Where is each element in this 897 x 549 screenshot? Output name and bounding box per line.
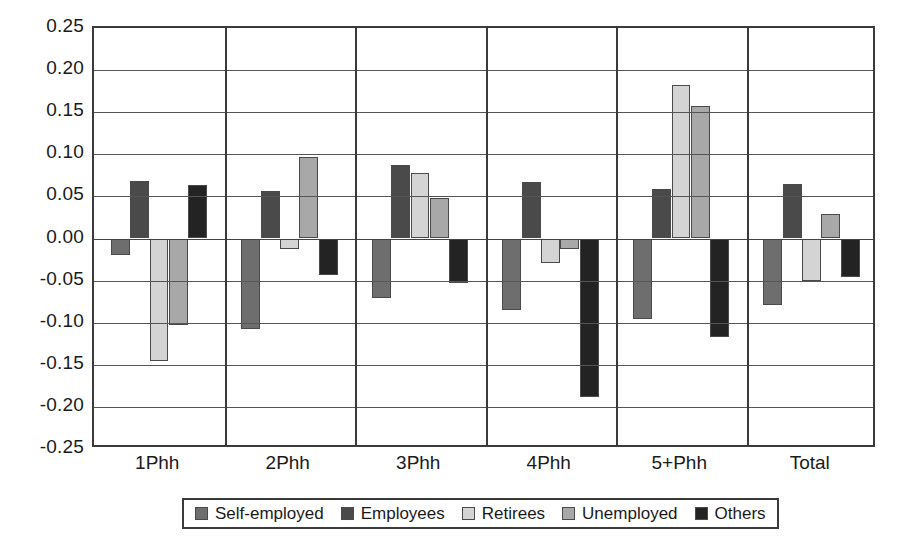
y-axis-tick-label: 0.10 [12, 141, 84, 163]
legend-item: Retirees [462, 504, 545, 524]
bar [560, 239, 579, 249]
y-axis-tick-label: 0.20 [12, 57, 84, 79]
gridline [94, 365, 873, 366]
gridline [94, 323, 873, 324]
plot-area [92, 26, 875, 447]
legend-swatch-icon [462, 507, 475, 520]
group-separator [486, 28, 488, 445]
y-axis-tick-label: 0.00 [12, 226, 84, 248]
chart-legend: Self-employedEmployeesRetireesUnemployed… [182, 498, 779, 529]
legend-label: Unemployed [582, 504, 677, 524]
bar [169, 239, 188, 326]
x-axis-tick-label: 4Phh [484, 452, 615, 474]
gridline [94, 407, 873, 408]
y-axis-tick-label: 0.15 [12, 99, 84, 121]
bar [633, 239, 652, 320]
bar [391, 165, 410, 238]
bar [672, 85, 691, 238]
bar [319, 239, 338, 275]
group-separator [225, 28, 227, 445]
bar [580, 239, 599, 397]
group-separator [355, 28, 357, 445]
x-axis-tick-label: 2Phh [223, 452, 354, 474]
legend-label: Others [715, 504, 766, 524]
legend-label: Self-employed [215, 504, 324, 524]
bar [449, 239, 468, 284]
bar [691, 106, 710, 238]
legend-item: Self-employed [195, 504, 324, 524]
legend-swatch-icon [562, 507, 575, 520]
bar [130, 181, 149, 238]
y-axis-tick-label: -0.15 [12, 352, 84, 374]
legend-item: Employees [341, 504, 445, 524]
bar [372, 239, 391, 299]
x-axis-tick-label: 1Phh [92, 452, 223, 474]
y-axis-tick-label: -0.20 [12, 394, 84, 416]
bar [502, 239, 521, 311]
y-axis-tick-label: -0.25 [12, 436, 84, 458]
bar [299, 157, 318, 239]
bar [802, 239, 821, 281]
legend-swatch-icon [195, 507, 208, 520]
bar [111, 239, 130, 256]
y-axis-tick-label: -0.05 [12, 268, 84, 290]
gridline [94, 154, 873, 155]
gridline [94, 281, 873, 282]
gridline [94, 112, 873, 113]
x-axis-tick-label: Total [745, 452, 876, 474]
bar [411, 173, 430, 239]
bar [541, 239, 560, 263]
legend-item: Others [695, 504, 766, 524]
gridline [94, 196, 873, 197]
bar [841, 239, 860, 278]
legend-swatch-icon [341, 507, 354, 520]
bar [150, 239, 169, 362]
legend-swatch-icon [695, 507, 708, 520]
bar-chart: 0.250.200.150.100.050.00-0.05-0.10-0.15-… [0, 0, 897, 549]
y-axis-tick-label: 0.25 [12, 15, 84, 37]
bar [763, 239, 782, 306]
legend-item: Unemployed [562, 504, 677, 524]
x-axis: 1Phh2Phh3Phh4Phh5+PhhTotal [92, 452, 875, 486]
gridline [94, 70, 873, 71]
group-separator [747, 28, 749, 445]
bar [821, 214, 840, 238]
bar [280, 239, 299, 250]
bar [522, 182, 541, 238]
bar [783, 184, 802, 239]
bars-layer [94, 28, 873, 445]
group-separator [616, 28, 618, 445]
legend-label: Employees [361, 504, 445, 524]
y-axis: 0.250.200.150.100.050.00-0.05-0.10-0.15-… [0, 0, 84, 549]
x-axis-tick-label: 3Phh [353, 452, 484, 474]
x-axis-tick-label: 5+Phh [614, 452, 745, 474]
legend-label: Retirees [482, 504, 545, 524]
bar [241, 239, 260, 329]
y-axis-tick-label: 0.05 [12, 183, 84, 205]
y-axis-tick-label: -0.10 [12, 310, 84, 332]
bar [430, 198, 449, 238]
zero-line [94, 239, 873, 240]
bar [188, 185, 207, 239]
bar [261, 191, 280, 239]
